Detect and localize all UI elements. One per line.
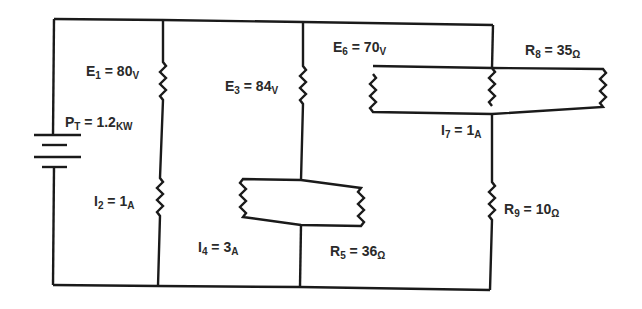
branch-1-wire: [157, 20, 166, 286]
label-e3: E3 = 84V: [225, 79, 278, 96]
label-r5: R5 = 36Ω: [330, 244, 385, 261]
label-i2: I2 = 1A: [94, 194, 134, 211]
wire-left-lower: [53, 167, 54, 285]
wire-bottom: [53, 285, 490, 290]
branch-2-lower-wire: [300, 225, 301, 287]
label-source-power: PT = 1.2KW: [65, 115, 133, 132]
resistor-middle-r7: [489, 68, 495, 106]
branch-3-upper: [492, 25, 493, 68]
branch-2-wire: [300, 22, 306, 180]
wire-top: [54, 19, 493, 25]
wire-left-upper: [53, 19, 54, 135]
label-r9: R9 = 10Ω: [504, 202, 559, 219]
label-r8: R8 = 35Ω: [525, 43, 580, 60]
label-e1: E1 = 80V: [86, 64, 139, 81]
label-i4: I4 = 3A: [198, 240, 238, 257]
battery-icon: [34, 135, 81, 167]
parallel-block-r5: [240, 179, 364, 226]
label-e6: E6 = 70V: [333, 40, 386, 57]
branch-3-lower: [489, 114, 495, 290]
label-i7: I7 = 1A: [441, 123, 481, 140]
